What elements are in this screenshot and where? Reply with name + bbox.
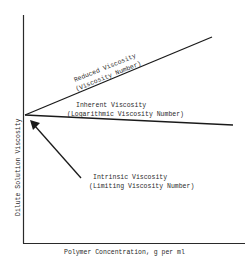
x-axis-label: Polymer Concentration, g per ml — [64, 249, 185, 256]
intrinsic-label-line2: (Limiting Viscosity Number) — [89, 183, 194, 190]
inherent-label-line1: Inherent Viscosity — [76, 102, 146, 109]
inherent-label-line2: (Logarithmic Viscosity Number) — [67, 111, 184, 118]
y-axis-label: Dilute Solution Viscosity — [15, 118, 22, 216]
intrinsic-label-line1: Intrinsic Viscosity — [93, 174, 167, 181]
arrow-head-icon — [30, 120, 40, 130]
intrinsic-arrow-shaft — [35, 126, 81, 178]
viscosity-diagram: Reduced Viscosity (Viscosity Number) Inh… — [0, 0, 250, 265]
